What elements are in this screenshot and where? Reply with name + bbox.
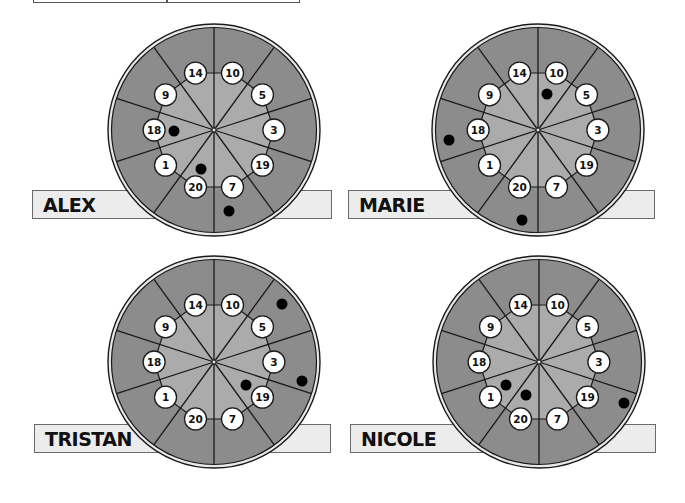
bullseye: [212, 128, 216, 132]
score-bubble: 9: [155, 84, 177, 106]
dartboard-target: 105319720118914: [104, 20, 324, 240]
dart-hit-marker: [542, 89, 553, 100]
svg-text:19: 19: [255, 159, 270, 171]
svg-text:10: 10: [549, 67, 564, 79]
score-bubble: 5: [251, 316, 273, 338]
score-bubble: 7: [222, 176, 244, 198]
svg-text:7: 7: [554, 413, 561, 425]
svg-text:20: 20: [188, 181, 203, 193]
score-bubble: 9: [155, 316, 177, 338]
svg-text:1: 1: [162, 391, 169, 403]
svg-text:3: 3: [270, 124, 277, 136]
svg-text:5: 5: [259, 89, 266, 101]
dart-hit-marker: [619, 398, 630, 409]
svg-text:10: 10: [550, 299, 565, 311]
dart-hit-marker: [444, 135, 455, 146]
score-bubble: 18: [468, 351, 490, 373]
svg-text:9: 9: [162, 89, 169, 101]
svg-text:19: 19: [579, 159, 594, 171]
dart-hit-marker: [224, 206, 235, 217]
dart-hit-marker: [241, 380, 252, 391]
dartboard-target: 105319720118914: [428, 20, 648, 240]
score-bubble: 7: [546, 176, 568, 198]
score-bubble: 1: [480, 386, 502, 408]
bullseye: [537, 360, 541, 364]
score-bubble: 10: [546, 62, 568, 84]
svg-text:9: 9: [487, 321, 494, 333]
svg-text:1: 1: [486, 159, 493, 171]
dart-hit-marker: [169, 126, 180, 137]
svg-text:5: 5: [583, 89, 590, 101]
score-bubble: 10: [222, 62, 244, 84]
score-bubble: 3: [588, 351, 610, 373]
score-bubble: 3: [587, 119, 609, 141]
svg-text:19: 19: [255, 391, 270, 403]
top-table-fragment: [33, 0, 300, 3]
svg-text:18: 18: [471, 124, 486, 136]
score-bubble: 1: [479, 154, 501, 176]
score-bubble: 20: [184, 176, 206, 198]
svg-text:5: 5: [584, 321, 591, 333]
score-bubble: 14: [184, 294, 206, 316]
score-bubble: 18: [143, 119, 165, 141]
svg-text:18: 18: [147, 124, 162, 136]
score-bubble: 14: [508, 62, 530, 84]
player-name: NICOLE: [361, 427, 436, 451]
svg-text:20: 20: [188, 413, 203, 425]
score-bubble: 19: [251, 154, 273, 176]
svg-text:14: 14: [512, 67, 527, 79]
score-bubble: 20: [184, 408, 206, 430]
svg-text:1: 1: [487, 391, 494, 403]
svg-text:5: 5: [259, 321, 266, 333]
svg-text:3: 3: [594, 124, 601, 136]
score-bubble: 9: [480, 316, 502, 338]
table-divider: [166, 0, 168, 2]
svg-text:18: 18: [147, 356, 162, 368]
svg-text:7: 7: [229, 181, 236, 193]
player-name: MARIE: [359, 193, 425, 217]
svg-text:18: 18: [472, 356, 487, 368]
svg-text:7: 7: [553, 181, 560, 193]
score-bubble: 18: [143, 351, 165, 373]
player-name: ALEX: [43, 193, 95, 217]
score-bubble: 19: [251, 386, 273, 408]
svg-text:10: 10: [225, 299, 240, 311]
svg-text:9: 9: [486, 89, 493, 101]
dart-hit-marker: [277, 299, 288, 310]
score-bubble: 14: [509, 294, 531, 316]
svg-text:19: 19: [580, 391, 595, 403]
dart-hit-marker: [196, 164, 207, 175]
svg-text:14: 14: [513, 299, 528, 311]
score-bubble: 10: [222, 294, 244, 316]
score-bubble: 19: [575, 154, 597, 176]
bullseye: [212, 360, 216, 364]
dart-hit-marker: [297, 376, 308, 387]
svg-text:1: 1: [162, 159, 169, 171]
bullseye: [536, 128, 540, 132]
score-bubble: 5: [575, 84, 597, 106]
score-bubble: 20: [508, 176, 530, 198]
dart-hit-marker: [521, 390, 532, 401]
score-bubble: 14: [184, 62, 206, 84]
score-bubble: 10: [547, 294, 569, 316]
score-bubble: 9: [479, 84, 501, 106]
svg-text:20: 20: [512, 181, 527, 193]
svg-text:3: 3: [595, 356, 602, 368]
score-bubble: 3: [263, 351, 285, 373]
dartboard-target: 105319720118914: [429, 252, 649, 472]
score-bubble: 7: [222, 408, 244, 430]
dart-hit-marker: [501, 380, 512, 391]
score-bubble: 20: [509, 408, 531, 430]
score-bubble: 3: [263, 119, 285, 141]
svg-text:14: 14: [188, 299, 203, 311]
svg-text:3: 3: [270, 356, 277, 368]
score-bubble: 19: [576, 386, 598, 408]
svg-text:7: 7: [229, 413, 236, 425]
dartboard-target: 105319720118914: [104, 252, 324, 472]
svg-text:20: 20: [513, 413, 528, 425]
svg-text:9: 9: [162, 321, 169, 333]
score-bubble: 1: [155, 386, 177, 408]
dart-hit-marker: [517, 215, 528, 226]
score-bubble: 5: [251, 84, 273, 106]
score-bubble: 1: [155, 154, 177, 176]
